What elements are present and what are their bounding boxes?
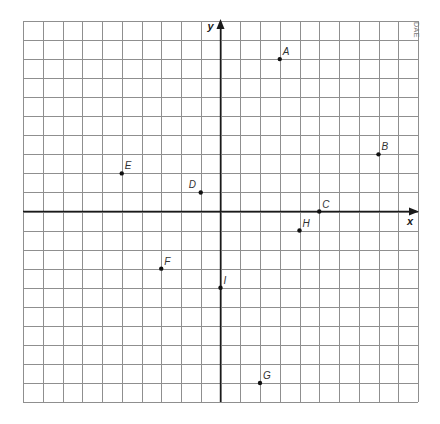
point-g: G [258,370,271,385]
point-f: F [159,256,171,271]
point-marker-icon [199,190,203,194]
point-label: C [322,199,330,210]
point-label: B [382,141,389,152]
point-marker-icon [258,381,262,385]
point-i: I [218,275,226,290]
x-axis-label: x [406,215,414,227]
point-h: H [297,218,310,233]
point-label: D [189,179,196,190]
point-label: E [125,160,132,171]
point-marker-icon [376,152,380,156]
point-marker-icon [278,57,282,61]
point-marker-icon [120,171,124,175]
point-label: A [282,46,290,57]
point-marker-icon [159,266,163,270]
credit-text: DAE [413,22,420,38]
point-marker-icon [218,286,222,290]
point-label: H [303,218,311,229]
plotted-points: ABCDEFGHI [120,46,389,385]
point-label: I [224,275,227,286]
point-marker-icon [317,209,321,213]
point-label: F [164,256,171,267]
point-marker-icon [297,228,301,232]
coordinate-plane: x y ABCDEFGHI [0,0,440,424]
y-axis-label: y [207,20,215,32]
y-axis-arrow-icon [217,19,225,29]
point-label: G [263,370,271,381]
